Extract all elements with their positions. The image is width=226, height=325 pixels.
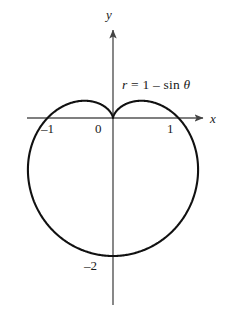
polar-plot-canvas bbox=[0, 0, 226, 325]
y-tick-label-neg2: –2 bbox=[84, 259, 97, 272]
x-tick-label-1: 1 bbox=[167, 122, 174, 135]
cardioid-figure: y x –1 0 1 –2 r = 1 – sin θ bbox=[0, 0, 226, 325]
x-tick-label-neg1: –1 bbox=[41, 122, 54, 135]
origin-label: 0 bbox=[95, 122, 102, 135]
x-axis-label: x bbox=[210, 112, 216, 125]
y-axis-label: y bbox=[106, 8, 112, 21]
equation-equals: = bbox=[131, 77, 139, 92]
equation-function: sin bbox=[164, 77, 180, 92]
equation-angle: θ bbox=[183, 77, 190, 92]
equation-minus: – bbox=[153, 77, 160, 92]
equation-annotation: r = 1 – sin θ bbox=[122, 78, 190, 92]
